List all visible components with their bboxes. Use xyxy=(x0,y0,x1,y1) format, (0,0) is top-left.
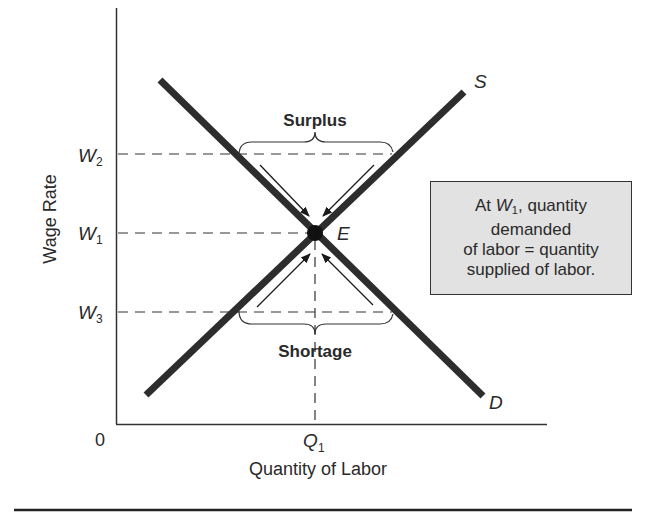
shortage-brace xyxy=(239,311,393,334)
y-axis-title: Wage Rate xyxy=(40,174,60,263)
origin-label: 0 xyxy=(95,430,105,450)
surplus-arrow-left xyxy=(260,165,309,216)
equilibrium-info-box: At W1, quantity demanded of labor = quan… xyxy=(430,181,632,295)
svg-text:3: 3 xyxy=(96,312,103,326)
shortage-label: Shortage xyxy=(278,342,352,361)
svg-text:W: W xyxy=(78,145,98,166)
svg-text:1: 1 xyxy=(96,233,103,247)
y-tick-w2: W 2 xyxy=(78,145,103,169)
info-line-3: of labor = quantity xyxy=(463,240,599,260)
y-tick-w1: W 1 xyxy=(78,223,103,247)
svg-text:1: 1 xyxy=(318,441,325,455)
supply-label: S xyxy=(474,71,487,92)
x-axis-title: Quantity of Labor xyxy=(249,459,387,479)
demand-label: D xyxy=(489,392,503,413)
equilibrium-point xyxy=(307,225,323,241)
svg-text:Q: Q xyxy=(303,430,318,451)
equilibrium-label: E xyxy=(337,223,350,244)
surplus-arrow-right xyxy=(323,165,374,216)
svg-text:W: W xyxy=(78,302,98,323)
x-tick-q1: Q 1 xyxy=(303,430,325,455)
svg-text:2: 2 xyxy=(96,155,103,169)
info-line-2: demanded xyxy=(491,220,571,240)
info-line-1: At W1, quantity xyxy=(475,196,587,220)
surplus-label: Surplus xyxy=(283,111,346,130)
w-variable: W xyxy=(496,196,512,215)
surplus-brace xyxy=(239,132,393,155)
y-tick-w3: W 3 xyxy=(78,302,103,326)
info-line-4: supplied of labor. xyxy=(467,260,596,280)
svg-text:W: W xyxy=(78,223,98,244)
